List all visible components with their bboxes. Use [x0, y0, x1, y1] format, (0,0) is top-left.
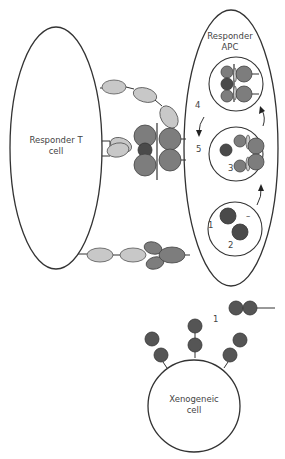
- costimulatory-molecule-chain-bottom: [78, 240, 190, 271]
- diagram-canvas: Responder T cell Responder APC: [0, 0, 285, 459]
- step-3-label: 3: [228, 163, 233, 173]
- t-cell-label-line1: Responder T: [29, 135, 83, 145]
- xeno-cell-label-line1: Xenogeneic: [169, 394, 219, 404]
- shed-step-1-label: 1: [213, 314, 218, 324]
- adhesion-molecule-chain-top: [100, 80, 182, 131]
- apc-label-line1: Responder: [207, 31, 253, 41]
- xenogeneic-cell: Xenogeneic cell: [148, 360, 240, 452]
- apc-label-line2: APC: [222, 42, 239, 52]
- t-cell-label-line2: cell: [49, 146, 64, 156]
- step-2-label: 2: [228, 240, 233, 250]
- minus-sign: –: [246, 211, 250, 221]
- tcr-mhc-complex: [102, 123, 186, 180]
- step-1-label: 1: [208, 220, 213, 230]
- shed-xenoantigen: 1: [213, 301, 275, 324]
- responder-t-cell: Responder T cell: [10, 27, 102, 269]
- xeno-cell-label-line2: cell: [187, 405, 202, 415]
- step-4-label: 4: [195, 100, 200, 110]
- step-5-label: 5: [196, 144, 201, 154]
